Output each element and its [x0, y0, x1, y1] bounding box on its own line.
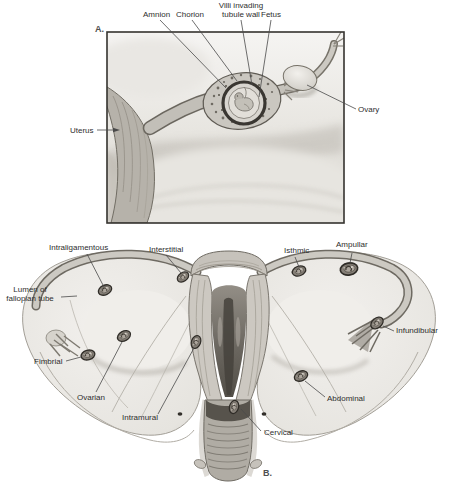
label-cervical: Cervical: [264, 428, 293, 437]
label-villi-line1: Villi invading: [212, 1, 270, 10]
label-intramural: Intramural: [122, 413, 158, 422]
label-amnion: Amnion: [143, 10, 170, 19]
label-isthmic: Isthmic: [284, 246, 309, 255]
left-ovary: [84, 290, 192, 370]
label-ovary: Ovary: [358, 105, 379, 114]
panel-b-illustration: [23, 251, 436, 481]
label-interstitial: Interstitial: [149, 245, 183, 254]
panel-a-illustration: [90, 32, 375, 270]
label-fimbrial: Fimbrial: [34, 357, 62, 366]
figure-canvas: A. Amnion Chorion Villi invading tubule …: [0, 0, 449, 494]
right-ovary: [266, 290, 374, 370]
label-ampullar: Ampullar: [336, 240, 368, 249]
label-lumen-of-fallopian-tube: Lumen of fallopian tube: [1, 285, 59, 303]
label-uterus: Uterus: [70, 126, 94, 135]
label-chorion: Chorion: [176, 10, 204, 19]
panel-a-letter: A.: [95, 25, 104, 34]
label-abdominal: Abdominal: [327, 394, 365, 403]
label-ovarian: Ovarian: [77, 393, 105, 402]
cervix-vagina: [193, 400, 263, 481]
label-intraligamentous: Intraligamentous: [49, 243, 108, 252]
label-lumen-line2: fallopian tube: [1, 294, 59, 303]
uterus-fundus: [191, 251, 267, 276]
label-lumen-line1: Lumen of: [1, 285, 59, 294]
label-fetus: Fetus: [261, 10, 281, 19]
label-infundibular: Infundibular: [396, 326, 438, 335]
panel-b-letter: B.: [263, 469, 272, 478]
